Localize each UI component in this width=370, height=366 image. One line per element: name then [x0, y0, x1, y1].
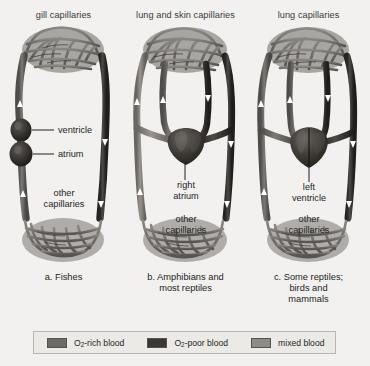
legend-swatch-o2-rich: [47, 338, 67, 348]
panel-birds-mammals: lung capillaries: [247, 0, 370, 320]
panel-b-top-label: lung and skin capillaries: [124, 10, 247, 21]
label-other-capillaries-b: other capillaries: [146, 214, 226, 235]
legend-label-o2-rich: O2-rich blood: [74, 338, 124, 348]
amphibian-heart: [168, 128, 205, 165]
label-atrium: atrium: [58, 149, 84, 160]
legend-row: O2-rich blood O2-poor blood mixed blood: [34, 332, 335, 353]
panel-b-caption: b. Amphibians and most reptiles: [124, 272, 247, 294]
label-other-capillaries-a: other capillaries: [25, 188, 103, 209]
lung-capillary-bed: [267, 27, 349, 73]
panel-a-diagram: [2, 22, 125, 270]
label-left-ventricle: left ventricle: [269, 182, 349, 203]
label-other-capillaries-c: other capillaries: [269, 214, 349, 235]
lung-skin-capillary-bed: [143, 27, 227, 73]
fish-heart: [10, 119, 33, 167]
atrium-chamber: [10, 142, 33, 167]
gill-capillary-bed: [22, 27, 104, 73]
legend: O2-rich blood O2-poor blood mixed blood: [33, 331, 336, 354]
panel-c-caption: c. Some reptiles; birds and mammals: [247, 272, 370, 306]
panel-c-top-label: lung capillaries: [247, 10, 370, 21]
mammal-heart: [290, 127, 327, 168]
panel-a-caption: a. Fishes: [2, 272, 125, 283]
panel-amphibians: lung and skin capillaries: [124, 0, 247, 320]
label-ventricle: ventricle: [58, 125, 92, 136]
legend-item-mixed: mixed blood: [251, 338, 324, 348]
legend-label-o2-poor: O2-poor blood: [174, 338, 228, 348]
panel-a-top-label: gill capillaries: [2, 10, 125, 21]
ventricle-chamber: [11, 119, 32, 142]
panel-fishes: gill capillaries: [2, 0, 125, 320]
legend-item-o2-rich: O2-rich blood: [47, 338, 124, 348]
body-capillary-bed: [22, 218, 104, 262]
panel-a-leader-lines: [32, 130, 54, 154]
legend-item-o2-poor: O2-poor blood: [147, 338, 228, 348]
label-right-atrium: right atrium: [146, 180, 226, 201]
circulatory-systems-figure: gill capillaries: [0, 0, 370, 366]
legend-label-mixed: mixed blood: [278, 338, 324, 348]
legend-swatch-mixed: [251, 338, 271, 348]
legend-swatch-o2-poor: [147, 338, 167, 348]
